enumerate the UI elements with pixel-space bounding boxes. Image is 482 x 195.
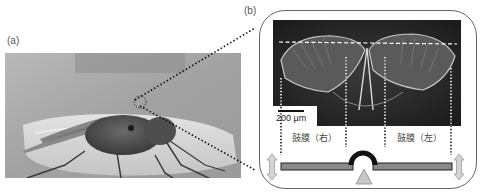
lever-model [0, 0, 482, 195]
tympanum-right-label: 鼓膜（右） [292, 131, 337, 144]
tympanum-left-label: 鼓膜（左） [397, 131, 442, 144]
